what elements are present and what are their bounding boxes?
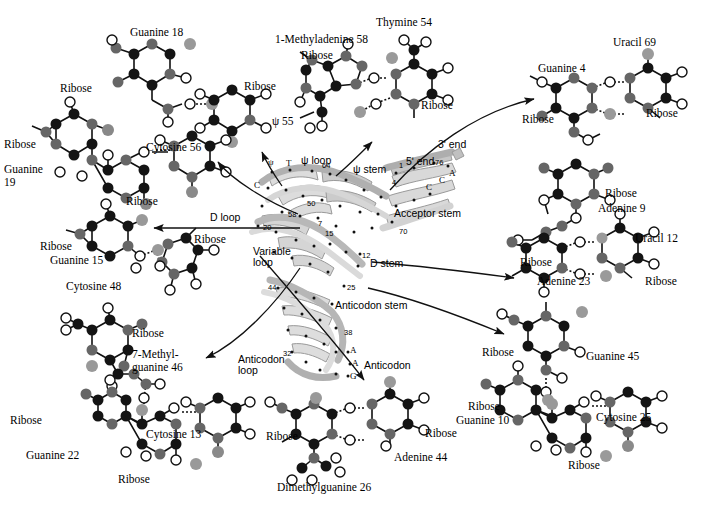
residue-number-1: 1: [399, 160, 403, 173]
label-guanine-19-b: 19: [4, 176, 16, 189]
base-letter-G-1: G: [350, 370, 357, 383]
label-guanine-19-a: Guanine: [4, 163, 43, 176]
label-cytosine-25: Cytosine 25: [596, 411, 651, 424]
residue-number-20: 20: [263, 222, 271, 235]
residue-number-58: 58: [288, 209, 296, 222]
label-thymine-54: Thymine 54: [376, 16, 432, 29]
base-letter-psi: ψ: [268, 156, 274, 169]
label-methylguanine-46-a: 7-Methyl-: [132, 348, 179, 361]
residue-number-76: 76: [435, 157, 443, 170]
base-letter-T: T: [286, 157, 292, 170]
label-ribose-a9: Ribose: [605, 187, 637, 200]
label-d-loop: D loop: [210, 212, 240, 224]
label-ribose-dmg26: Ribose: [266, 430, 298, 443]
residue-number-38: 38: [344, 327, 352, 340]
label-ribose-t54: Ribose: [421, 99, 453, 112]
label-ribose-ma58: Ribose: [301, 49, 333, 62]
label-ribose-g22-bottom: Ribose: [118, 473, 150, 486]
label-cytosine-13: Cytosine 13: [146, 428, 201, 441]
label-cytosine-56: Cytosine 56: [146, 141, 201, 154]
label-methylguanine-46-b: guanine 46: [132, 361, 183, 374]
arrow-to-mguanine46: [206, 268, 300, 358]
molecule-guanine45-guanine10-cytosine25: [481, 302, 668, 462]
residue-number-32: 32: [283, 348, 291, 361]
label-ribose-g15: Ribose: [40, 240, 72, 253]
label-ribose-psi55: Ribose: [244, 80, 276, 93]
residue-number-12: 12: [362, 250, 370, 263]
residue-number-64: 64: [322, 160, 330, 173]
label-five-prime-end: 5ʹ end: [406, 156, 434, 168]
molecule-guanine19-cytosine56: [32, 97, 231, 210]
trna-ribbon-model: [252, 148, 464, 378]
label-guanine-10: Guanine 10: [456, 414, 509, 427]
label-ribose-mg46: Ribose: [132, 327, 164, 340]
label-ribose-u69: Ribose: [646, 107, 678, 120]
residue-number-44: 44: [268, 282, 276, 295]
label-psi-stem: ψ stem: [353, 164, 386, 176]
label-adenine-23: Adenine 23: [537, 275, 590, 288]
label-guanine-45: Guanine 45: [586, 350, 639, 363]
residue-number-4: 4: [392, 177, 396, 190]
label-variable-loop-2: loop: [253, 257, 273, 269]
label-ribose-u12: Ribose: [645, 275, 677, 288]
residue-number-25: 25: [347, 282, 355, 295]
label-guanine-22: Guanine 22: [26, 449, 79, 462]
label-guanine-15: Guanine 15: [50, 254, 103, 267]
label-uracil-69: Uracil 69: [613, 36, 656, 49]
label-ribose-c25: Ribose: [568, 459, 600, 472]
residue-number-15: 15: [325, 228, 333, 241]
label-adenine-44: Adenine 44: [394, 451, 447, 464]
residue-number-7: 7: [318, 218, 322, 231]
label-psi-55: ψ 55: [272, 115, 294, 128]
label-dimethylguanine-26: Dimethylguanine 26: [277, 481, 371, 494]
label-methyladenine-58: 1-Methyladenine 58: [275, 33, 368, 46]
label-anticodon: Anticodon: [364, 360, 411, 372]
base-letter-C-1: C: [254, 179, 260, 192]
label-uracil-12: Uracil 12: [635, 232, 678, 245]
label-anticodon-stem: Anticodon stem: [335, 300, 407, 312]
label-three-prime-end: 3ʹ end: [438, 139, 466, 151]
label-acceptor-stem: Acceptor stem: [394, 208, 461, 220]
label-ribose-c56: Ribose: [126, 195, 158, 208]
label-adenine-9: Adenine 9: [598, 202, 646, 215]
label-cytosine-48: Cytosine 48: [66, 280, 121, 293]
residue-number-50: 50: [307, 198, 315, 211]
base-letter-A-1: A: [449, 167, 456, 180]
base-letter-C-3: C: [439, 174, 445, 187]
label-guanine-18: Guanine 18: [130, 26, 183, 39]
label-ribose-a44: Ribose: [425, 427, 457, 440]
label-anticodon-loop-2: loop: [238, 365, 258, 377]
base-letter-C-2: C: [426, 181, 432, 194]
figure-graphics: [0, 0, 702, 512]
label-ribose-g22-left: Ribose: [10, 414, 42, 427]
trna-figure: ψ loop ψ stem Acceptor stem D loop D ste…: [0, 0, 702, 512]
base-letter-A-3: A: [352, 357, 359, 370]
label-ribose-g4: Ribose: [522, 113, 554, 126]
label-ribose-c48: Ribose: [194, 233, 226, 246]
label-ribose-g18: Ribose: [60, 82, 92, 95]
label-guanine-4: Guanine 4: [538, 62, 586, 75]
residue-number-70: 70: [399, 226, 407, 239]
label-ribose-a23: Ribose: [520, 256, 552, 269]
label-ribose-g45: Ribose: [482, 346, 514, 359]
label-d-stem: D stem: [370, 258, 403, 270]
label-ribose-g10: Ribose: [468, 400, 500, 413]
base-letter-A-2: A: [350, 344, 357, 357]
label-ribose-g19: Ribose: [4, 138, 36, 151]
